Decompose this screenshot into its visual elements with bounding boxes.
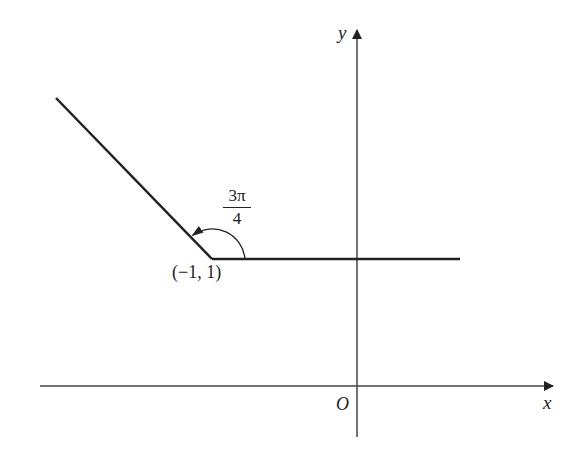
x-axis-label: x bbox=[543, 392, 551, 414]
diagram-canvas: y x O (−1, 1) 3π 4 bbox=[0, 0, 578, 454]
angle-numerator: 3π bbox=[220, 186, 254, 206]
angle-label: 3π 4 bbox=[220, 186, 254, 229]
fraction-bar bbox=[223, 207, 251, 208]
angle-arc bbox=[193, 229, 245, 259]
y-axis-label: y bbox=[338, 22, 346, 44]
diagram-svg bbox=[0, 0, 578, 454]
point-label: (−1, 1) bbox=[172, 262, 221, 283]
origin-label: O bbox=[336, 394, 349, 415]
diagonal-ray bbox=[56, 98, 212, 259]
angle-denominator: 4 bbox=[220, 209, 254, 229]
